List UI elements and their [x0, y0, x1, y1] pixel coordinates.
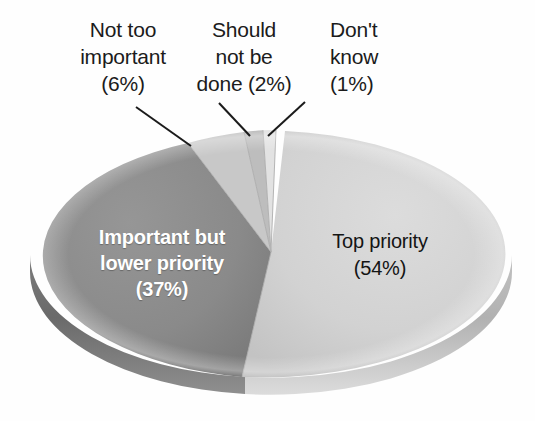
callout-label-dont-know: Don't know (1%): [330, 16, 440, 97]
slice-label-top-priority: Top priority (54%): [300, 228, 460, 282]
slice-label-important-lower-priority: Important but lower priority (37%): [52, 224, 272, 302]
callout-label-should-not-be-done: Should not be done (2%): [175, 16, 313, 97]
pie-chart-figure: Not too important (6%) Should not be don…: [0, 0, 535, 421]
